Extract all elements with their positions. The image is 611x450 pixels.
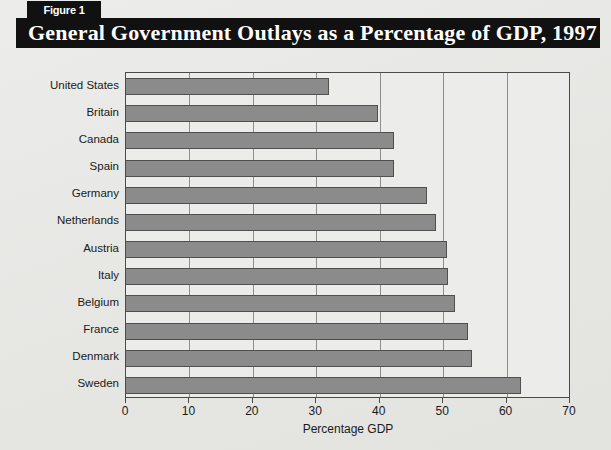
page-title: General Government Outlays as a Percenta…	[16, 20, 597, 46]
category-label: Denmark	[7, 350, 119, 362]
x-tick-label: 50	[435, 404, 448, 418]
x-tick-label: 40	[372, 404, 385, 418]
bar[interactable]	[126, 214, 436, 231]
bar-row[interactable]	[126, 318, 570, 345]
bar[interactable]	[126, 377, 521, 394]
x-tick	[569, 398, 570, 403]
bar-row[interactable]	[126, 127, 570, 154]
x-tick-label: 70	[562, 404, 575, 418]
category-label: United States	[7, 79, 119, 91]
bar[interactable]	[126, 295, 455, 312]
bar[interactable]	[126, 160, 394, 177]
category-label: Canada	[7, 133, 119, 145]
bar-row[interactable]	[126, 73, 570, 100]
category-label: France	[7, 323, 119, 335]
bar[interactable]	[126, 78, 329, 95]
bar-row[interactable]	[126, 345, 570, 372]
x-tick-label: 20	[245, 404, 258, 418]
bar-row[interactable]	[126, 155, 570, 182]
bar-row[interactable]	[126, 263, 570, 290]
plot-area	[125, 72, 570, 398]
x-tick	[188, 398, 189, 403]
x-tick-label: 10	[182, 404, 195, 418]
bar-row[interactable]	[126, 290, 570, 317]
bar[interactable]	[126, 105, 378, 122]
x-tick	[315, 398, 316, 403]
figure-number-badge: Figure 1	[27, 1, 101, 18]
x-tick	[252, 398, 253, 403]
category-label: Germany	[7, 187, 119, 199]
chart: United StatesBritainCanadaSpainGermanyNe…	[0, 48, 611, 450]
x-tick-label: 0	[122, 404, 129, 418]
bar-row[interactable]	[126, 209, 570, 236]
figure-title-band: General Government Outlays as a Percenta…	[16, 18, 600, 48]
x-tick	[125, 398, 126, 403]
category-label: Austria	[7, 242, 119, 254]
x-axis-tick-labels: 010203040506070	[0, 404, 611, 420]
bar-row[interactable]	[126, 100, 570, 127]
category-label: Belgium	[7, 296, 119, 308]
bar[interactable]	[126, 268, 448, 285]
figure-container: Figure 1 General Government Outlays as a…	[0, 0, 611, 450]
x-tick	[379, 398, 380, 403]
bar-row[interactable]	[126, 236, 570, 263]
bar[interactable]	[126, 350, 472, 367]
category-label: Sweden	[7, 377, 119, 389]
bar[interactable]	[126, 241, 447, 258]
x-tick	[506, 398, 507, 403]
category-label: Netherlands	[7, 214, 119, 226]
x-axis-title: Percentage GDP	[125, 422, 571, 436]
bar-row[interactable]	[126, 372, 570, 398]
category-label: Italy	[7, 269, 119, 281]
bar[interactable]	[126, 132, 394, 149]
y-axis-category-labels: United StatesBritainCanadaSpainGermanyNe…	[0, 72, 119, 398]
bar-row[interactable]	[126, 182, 570, 209]
category-label: Britain	[7, 106, 119, 118]
x-tick-label: 30	[309, 404, 322, 418]
category-label: Spain	[7, 160, 119, 172]
bar[interactable]	[126, 187, 427, 204]
bar[interactable]	[126, 323, 468, 340]
x-tick-label: 60	[499, 404, 512, 418]
x-tick	[442, 398, 443, 403]
